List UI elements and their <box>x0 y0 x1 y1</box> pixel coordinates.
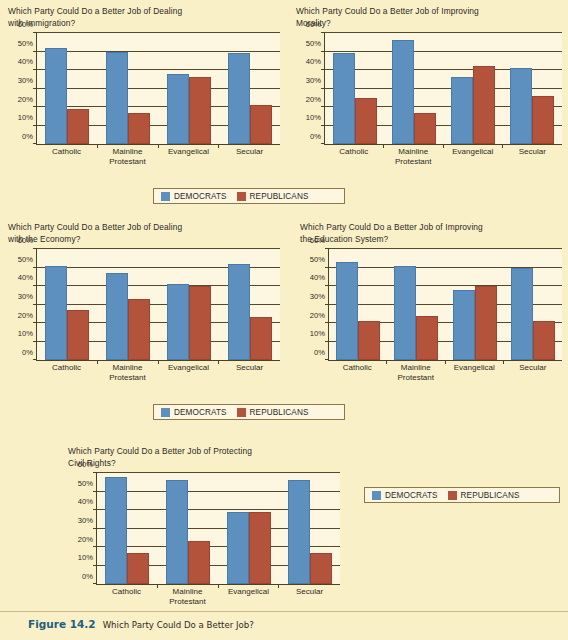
legend-swatch-democrats-icon <box>161 408 170 417</box>
bar-democrats <box>510 68 532 144</box>
category-separator-tick <box>218 360 219 364</box>
category-separator-tick <box>383 144 384 148</box>
bar-democrats <box>333 53 355 144</box>
y-tick-label: 50% <box>18 38 33 47</box>
category-separator-tick <box>386 360 387 364</box>
bar-democrats <box>228 264 250 360</box>
y-tick-label: 60% <box>78 460 93 469</box>
legend-label-democrats: DEMOCRATS <box>385 491 438 500</box>
y-tick-label: 20% <box>78 534 93 543</box>
bar-group <box>446 249 504 360</box>
x-axis-category-label: Evangelical <box>218 587 279 607</box>
y-tick-label: 30% <box>18 292 33 301</box>
bar-democrats <box>511 268 533 361</box>
y-axis: 0%10%20%30%40%50%60% <box>68 473 96 585</box>
legend-swatch-republicans-icon <box>237 408 246 417</box>
bar-democrats <box>167 74 189 144</box>
bar-republicans <box>355 98 377 144</box>
category-separator-tick <box>158 144 159 148</box>
legend-economy: DEMOCRATS REPUBLICANS <box>153 404 345 420</box>
chart-title-civil-rights: Which Party Could Do a Better Job of Pro… <box>68 446 340 469</box>
bar-republicans <box>473 66 495 144</box>
y-tick-label: 0% <box>82 572 93 581</box>
bar-democrats <box>451 77 473 144</box>
bar-democrats <box>336 262 358 360</box>
bar-republicans <box>358 321 380 360</box>
legend-item-democrats: DEMOCRATS <box>161 192 227 201</box>
bar-group <box>329 249 387 360</box>
legend-swatch-republicans-icon <box>237 192 246 201</box>
bar-series-container <box>97 473 340 584</box>
x-labels-economy: CatholicMainline ProtestantEvangelicalSe… <box>36 363 280 383</box>
bar-group <box>387 249 445 360</box>
bar-democrats <box>288 480 310 584</box>
y-tick-label: 40% <box>18 57 33 66</box>
category-separator-tick <box>502 144 503 148</box>
bar-series-container <box>37 33 280 144</box>
y-tick-label: 50% <box>310 254 325 263</box>
category-separator-tick <box>158 360 159 364</box>
bar-republicans <box>250 317 272 360</box>
bar-democrats <box>105 477 127 584</box>
bar-republicans <box>250 105 272 144</box>
y-tick-label: 50% <box>18 254 33 263</box>
plot-wrap-civil-rights: 0%10%20%30%40%50%60% <box>68 473 340 585</box>
legend-immigration: DEMOCRATS REPUBLICANS <box>153 188 345 204</box>
legend-item-democrats: DEMOCRATS <box>161 408 227 417</box>
y-tick-label: 10% <box>18 329 33 338</box>
bar-republicans <box>249 512 271 584</box>
bar-group <box>279 473 340 584</box>
legend-swatch-republicans-icon <box>448 491 457 500</box>
x-axis-category-label: Mainline Protestant <box>387 363 446 383</box>
category-separator-tick <box>443 144 444 148</box>
legend-swatch-democrats-icon <box>372 491 381 500</box>
y-tick-label: 60% <box>306 20 321 29</box>
category-separator-tick <box>278 584 279 588</box>
category-separator-tick <box>218 144 219 148</box>
x-axis-category-label: Mainline Protestant <box>97 363 158 383</box>
x-axis-category-label: Catholic <box>96 587 157 607</box>
bar-republicans <box>414 113 436 144</box>
figure-page: Which Party Could Do a Better Job of Dea… <box>0 0 568 640</box>
x-labels-civil-rights: CatholicMainline ProtestantEvangelicalSe… <box>96 587 340 607</box>
legend-label-republicans: REPUBLICANS <box>461 491 520 500</box>
y-tick-label: 40% <box>310 273 325 282</box>
bar-group <box>97 473 158 584</box>
y-tick-label: 10% <box>306 113 321 122</box>
bar-republicans <box>532 96 554 144</box>
bar-group <box>219 473 280 584</box>
y-tick-label: 30% <box>306 76 321 85</box>
y-tick-label: 10% <box>78 553 93 562</box>
legend-label-republicans: REPUBLICANS <box>250 408 309 417</box>
bar-series-container <box>325 33 562 144</box>
bar-group <box>159 33 220 144</box>
y-axis: 0%10%20%30%40%50%60% <box>296 33 324 145</box>
y-tick-label: 60% <box>18 20 33 29</box>
x-axis-category-label: Secular <box>279 587 340 607</box>
bar-democrats <box>227 512 249 584</box>
chart-civil-rights: Which Party Could Do a Better Job of Pro… <box>68 446 340 607</box>
bar-republicans <box>533 321 555 360</box>
y-tick-label: 0% <box>22 132 33 141</box>
legend-item-republicans: REPUBLICANS <box>237 192 309 201</box>
plot-area <box>36 249 280 361</box>
plot-wrap-economy: 0%10%20%30%40%50%60% <box>8 249 280 361</box>
bar-democrats <box>392 40 414 144</box>
bar-republicans <box>475 286 497 360</box>
plot-area <box>36 33 280 145</box>
legend-label-republicans: REPUBLICANS <box>250 192 309 201</box>
y-tick-label: 20% <box>18 310 33 319</box>
bar-democrats <box>45 48 67 144</box>
x-axis-category-label: Evangelical <box>158 147 219 167</box>
x-axis-category-label: Evangelical <box>445 363 504 383</box>
x-axis-category-label: Mainline Protestant <box>157 587 218 607</box>
figure-caption: Figure 14.2 Which Party Could Do a Bette… <box>28 618 254 630</box>
chart-education: Which Party Could Do a Better Job of Imp… <box>300 222 562 383</box>
x-axis-category-label: Catholic <box>36 147 97 167</box>
legend-item-republicans: REPUBLICANS <box>448 491 520 500</box>
plot-wrap-morality: 0%10%20%30%40%50%60% <box>296 33 562 145</box>
category-separator-tick <box>97 144 98 148</box>
y-tick-label: 0% <box>310 132 321 141</box>
x-axis-category-label: Catholic <box>324 147 384 167</box>
bar-democrats <box>106 52 128 145</box>
